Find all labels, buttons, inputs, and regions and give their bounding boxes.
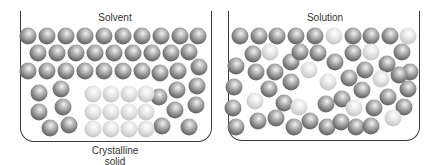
solvent-particle-icon (191, 59, 208, 76)
solvent-particle-icon (327, 54, 344, 71)
solvent-particle-icon (170, 63, 187, 80)
solvent-particle-icon (30, 45, 47, 62)
solvent-particle-icon (363, 118, 380, 135)
solute-particle-icon (138, 86, 155, 103)
solvent-particle-icon (58, 63, 75, 80)
solvent-particle-icon (394, 44, 411, 61)
solvent-particle-icon (68, 45, 85, 62)
solute-particle-icon (138, 104, 155, 121)
solute-particle-icon (320, 74, 337, 91)
crystalline-solid-label: Crystalline solid (80, 145, 150, 165)
solvent-particle-icon (345, 28, 362, 45)
solvent-particle-icon (188, 97, 205, 114)
solvent-particle-icon (96, 63, 113, 80)
solvent-particle-icon (380, 89, 397, 106)
crystalline-label-line2: solid (80, 156, 150, 165)
solvent-particle-icon (245, 46, 262, 63)
solvent-particle-icon (228, 119, 245, 136)
solute-particle-icon (262, 44, 279, 61)
solvent-particle-icon (39, 28, 56, 45)
solute-particle-icon (121, 121, 138, 138)
solvent-particle-icon (53, 81, 70, 98)
solvent-particle-icon (58, 28, 75, 45)
solvent-particle-icon (307, 28, 324, 45)
solvent-particle-icon (55, 99, 72, 116)
solvent-particle-icon (288, 28, 305, 45)
solvent-particle-icon (31, 104, 48, 121)
solvent-particle-icon (345, 45, 362, 62)
solvent-particle-icon (250, 113, 267, 130)
solvent-particle-icon (152, 65, 169, 82)
solvent-particle-icon (181, 119, 198, 136)
solute-particle-icon (400, 28, 417, 45)
solvent-particle-icon (248, 64, 265, 81)
solvent-particle-icon (167, 102, 184, 119)
solvent-particle-icon (42, 120, 59, 137)
solvent-particle-icon (134, 63, 151, 80)
solvent-particle-icon (134, 28, 151, 45)
solvent-particle-icon (154, 118, 171, 135)
solvent-particle-icon (268, 110, 285, 127)
solvent-particle-icon (144, 45, 161, 62)
solvent-particle-icon (115, 63, 132, 80)
solvent-particle-icon (153, 28, 170, 45)
solvent-particle-icon (181, 44, 198, 61)
solvent-particle-icon (261, 81, 278, 98)
solute-particle-icon (103, 104, 120, 121)
solvent-particle-icon (20, 63, 37, 80)
solvent-particle-icon (115, 28, 132, 45)
solvent-particle-icon (228, 58, 245, 75)
solvent-particle-icon (363, 28, 380, 45)
solvent-particle-icon (225, 100, 242, 117)
solute-particle-icon (363, 44, 380, 61)
solute-particle-icon (301, 62, 318, 79)
solute-particle-icon (85, 121, 102, 138)
solvent-particle-icon (302, 113, 319, 130)
solvent-particle-icon (292, 44, 309, 61)
solvent-particle-icon (357, 62, 374, 79)
solvent-particle-icon (31, 85, 48, 102)
solvent-particle-icon (226, 79, 243, 96)
solute-particle-icon (103, 121, 120, 138)
solvent-particle-icon (172, 28, 189, 45)
solvent-particle-icon (283, 74, 300, 91)
solvent-particle-icon (77, 63, 94, 80)
solvent-particle-icon (49, 45, 66, 62)
solvent-particle-icon (354, 82, 371, 99)
solute-particle-icon (385, 110, 402, 127)
solute-particle-icon (138, 121, 155, 138)
solute-particle-icon (121, 86, 138, 103)
solvent-particle-icon (39, 63, 56, 80)
solute-particle-icon (346, 100, 363, 117)
solute-particle-icon (326, 28, 343, 45)
solute-particle-icon (85, 104, 102, 121)
solute-particle-icon (121, 104, 138, 121)
solvent-particle-icon (318, 96, 335, 113)
solute-particle-icon (247, 93, 264, 110)
solvent-particle-icon (310, 45, 327, 62)
solvent-particle-icon (267, 64, 284, 81)
solvent-particle-icon (189, 78, 206, 95)
solute-particle-icon (85, 86, 102, 103)
solvent-label: Solvent (95, 12, 135, 23)
solvent-particle-icon (20, 28, 37, 45)
solvent-particle-icon (87, 45, 104, 62)
solvent-particle-icon (125, 45, 142, 62)
solvent-particle-icon (61, 117, 78, 134)
solvent-particle-icon (169, 82, 186, 99)
solute-particle-icon (103, 86, 120, 103)
solute-particle-icon (373, 71, 390, 88)
solvent-particle-icon (366, 100, 383, 117)
solvent-particle-icon (77, 28, 94, 45)
solvent-particle-icon (382, 28, 399, 45)
solvent-particle-icon (400, 81, 417, 98)
solvent-particle-icon (251, 28, 268, 45)
solvent-particle-icon (190, 28, 207, 45)
solvent-particle-icon (163, 45, 180, 62)
solvent-particle-icon (232, 28, 249, 45)
solution-label: Solution (303, 12, 347, 23)
solvent-particle-icon (269, 28, 286, 45)
solvent-particle-icon (96, 28, 113, 45)
crystalline-label-line1: Crystalline (80, 145, 150, 156)
solvent-particle-icon (106, 45, 123, 62)
